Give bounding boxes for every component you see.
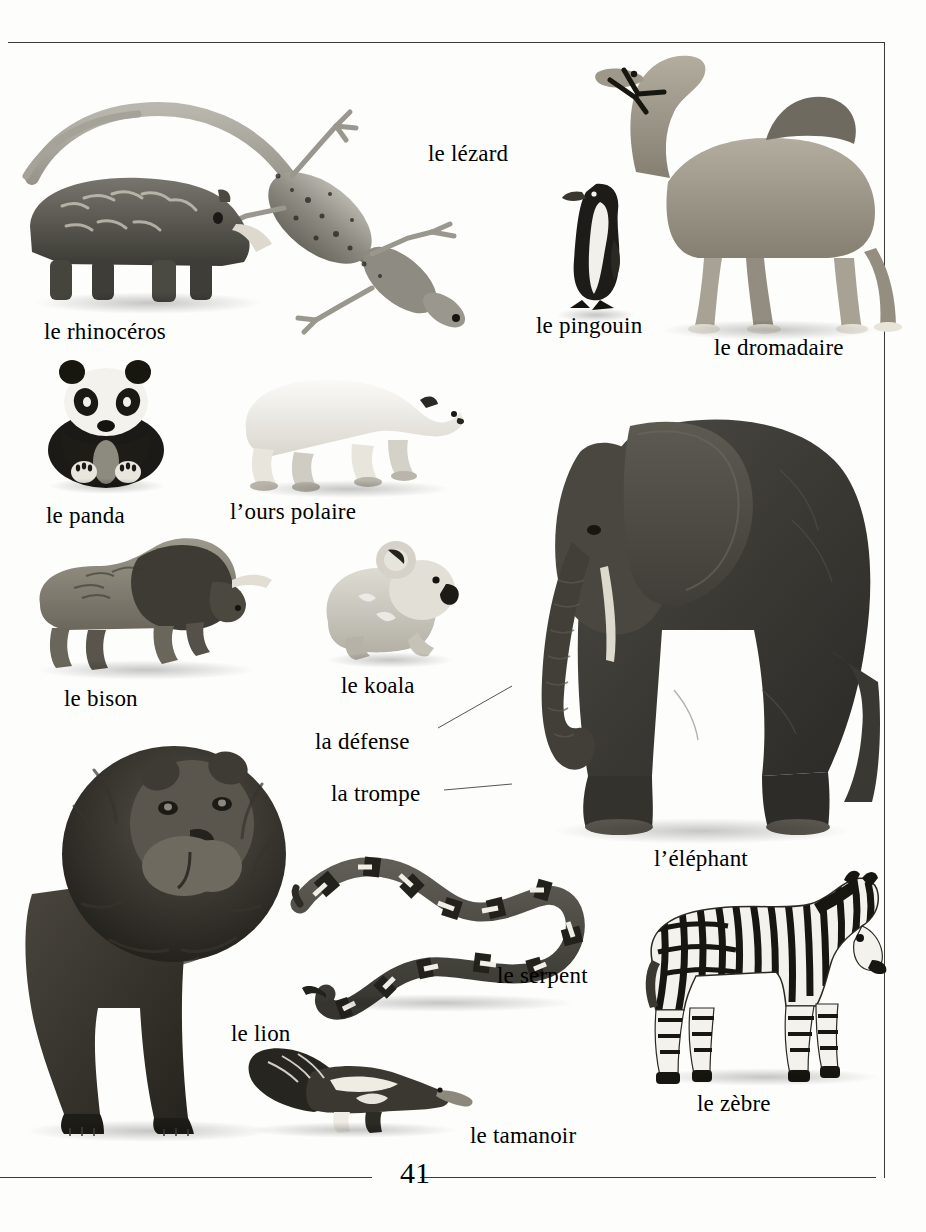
koala-photo [318, 536, 468, 666]
snake-photo [292, 840, 592, 1015]
label-pingouin: le pingouin [536, 314, 642, 337]
label-koala: le koala [341, 674, 415, 697]
anteater-photo [238, 1040, 476, 1135]
bison-photo [26, 532, 276, 672]
zebra-photo [636, 868, 898, 1090]
anteater-shadow [248, 1122, 458, 1138]
frame-bottom-left-rule [0, 1177, 372, 1178]
label-panda: le panda [46, 504, 125, 527]
rhinoceros-photo [22, 168, 282, 303]
label-defense: la défense [315, 730, 410, 753]
label-lion: le lion [231, 1022, 291, 1045]
label-elephant: l’éléphant [654, 847, 748, 870]
label-rhinoceros: le rhinocéros [44, 320, 166, 343]
panda-shadow [48, 478, 166, 494]
zebra-shadow [650, 1068, 880, 1086]
elephant-shadow [552, 818, 852, 844]
frame-bottom-right-rule [420, 1177, 876, 1178]
label-serpent: le serpent [497, 964, 588, 987]
label-dromadaire: le dromadaire [714, 336, 844, 359]
page-number: 41 [400, 1158, 430, 1188]
camel-photo [518, 32, 908, 332]
rhinoceros-shadow [34, 292, 264, 314]
label-ours-polaire: l’ours polaire [230, 500, 356, 523]
bison-shadow [36, 660, 256, 680]
lion-shadow [24, 1120, 274, 1142]
panda-photo [42, 358, 170, 490]
label-bison: le bison [64, 687, 138, 710]
koala-shadow [326, 652, 454, 668]
label-zebre: le zèbre [697, 1092, 771, 1115]
label-tamanoir: le tamanoir [470, 1124, 576, 1147]
label-lezard: le lézard [428, 142, 508, 165]
label-trompe: la trompe [331, 782, 420, 805]
elephant-photo [462, 390, 882, 835]
snake-shadow [306, 994, 576, 1012]
polar-bear-shadow [244, 480, 452, 498]
dictionary-page: le lézard le rhinocéros le pingouin le d… [0, 0, 926, 1232]
polar-bear-photo [232, 368, 467, 493]
